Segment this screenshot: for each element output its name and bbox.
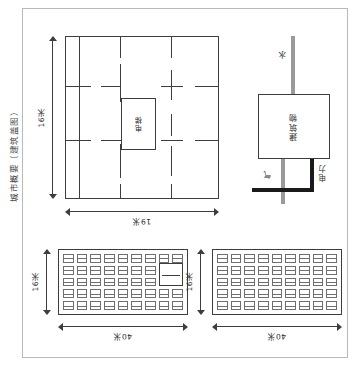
desk [131,254,142,263]
desk [90,278,101,287]
office-plan-right-desk-grid [217,254,337,310]
desk [217,301,228,310]
desk [258,254,269,263]
desk [90,301,101,310]
desk [285,278,296,287]
desk [131,289,142,298]
wall-segment [171,114,172,136]
wall-segment [120,64,121,102]
desk [104,289,115,298]
desk [258,301,269,310]
floor-plan-height-label: 16米 [36,108,47,127]
desk [145,278,156,287]
desk [285,266,296,275]
desk [77,266,88,275]
wall-segment [101,140,121,141]
desk [272,278,283,287]
desk [159,289,170,298]
wall-segment [171,184,172,199]
desk [172,254,183,263]
office-plan-left-corner-room [159,263,183,286]
elevator-core: 电梯 [121,98,156,150]
desk [63,278,74,287]
desk [231,254,242,263]
desk [285,254,296,263]
floor-plan-height-dimension: 16米 [47,36,58,199]
power-line-horizontal [252,188,314,192]
elevator-label: 电梯 [134,116,144,132]
dimension-line [46,253,47,311]
wall-segment [120,184,121,199]
arrow-down-icon [43,310,51,315]
wall-segment [65,86,91,87]
desk [272,301,283,310]
wall-segment [101,86,121,87]
desk [272,289,283,298]
desk [326,266,337,275]
desk [313,254,324,263]
building-label: 建筑物 [289,112,300,141]
arrow-right-icon [337,323,342,331]
desk [172,289,183,298]
office-plan-right: 16米 40米 [212,249,342,315]
office-right-width-label: 40米 [212,332,342,343]
arrow-down-icon [49,194,57,199]
office-left-width-label: 40米 [58,332,188,343]
desk [63,266,74,275]
dimension-line [62,326,184,327]
desk [145,289,156,298]
desk [272,254,283,263]
water-pipe [291,36,295,94]
desk [217,254,228,263]
desk [159,301,170,310]
desk [118,289,129,298]
office-left-width-dimension: 40米 [58,321,188,332]
desk [326,301,337,310]
desk [118,266,129,275]
building-box: 建筑物 [258,94,330,159]
office-right-width-dimension: 40米 [212,321,342,332]
desk [90,266,101,275]
desk [77,278,88,287]
desk [131,278,142,287]
gas-label: 气 [262,170,273,179]
desk [145,254,156,263]
floor-plan-width-label: 19米 [65,217,219,228]
desk [118,301,129,310]
desk [244,278,255,287]
office-right-height-dimension: 16米 [195,249,206,315]
wall-segment [161,86,183,87]
desk [90,289,101,298]
desk [258,278,269,287]
desk [172,301,183,310]
desk [244,266,255,275]
wall-segment [195,86,219,87]
wall-segment [171,146,172,176]
desk [299,266,310,275]
desk [244,301,255,310]
wall-segment [79,36,80,199]
desk [231,266,242,275]
desk [313,278,324,287]
desk [313,289,324,298]
desk [326,289,337,298]
desk [313,301,324,310]
dimension-line [200,253,201,311]
power-label: 电力 [317,164,328,182]
wall-segment [171,70,172,100]
wall-segment [65,140,91,141]
desk [131,266,142,275]
utility-schematic: 水 建筑物 气 电力 [248,36,344,204]
wall-segment [161,140,183,141]
desk [258,266,269,275]
desk [313,266,324,275]
desk [258,289,269,298]
arrow-down-icon [197,310,205,315]
desk [63,301,74,310]
figure-page: 城市概要（建筑盖图） 电梯 16米 [0,0,356,366]
desk [63,254,74,263]
desk [145,266,156,275]
desk [104,278,115,287]
desk [326,254,337,263]
desk [244,289,255,298]
